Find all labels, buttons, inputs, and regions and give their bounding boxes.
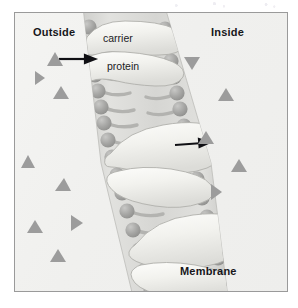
label-outside: Outside [33, 26, 75, 38]
solute-particles [15, 13, 287, 291]
label-protein: protein [107, 60, 139, 72]
particle-at-membrane-edge [47, 52, 63, 66]
label-inside: Inside [211, 26, 244, 38]
particles-outside [21, 71, 83, 262]
illustration-frame: Outside Inside Membrane carrier protein [14, 12, 288, 292]
scan-artifact [160, 1, 296, 10]
particles-inside [184, 57, 247, 200]
label-membrane: Membrane [180, 265, 237, 277]
membrane-diagram-figure: Outside Inside Membrane carrier protein [0, 0, 298, 308]
label-carrier: carrier [103, 32, 133, 44]
